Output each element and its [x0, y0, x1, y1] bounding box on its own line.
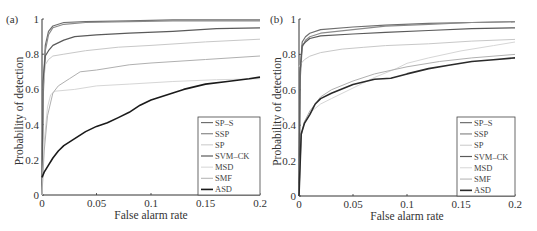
x-tick-label: 0.1: [400, 198, 414, 210]
y-axis-label: Probability of detection: [13, 56, 26, 165]
legend-entry: SP–S: [474, 118, 493, 128]
y-tick-label: 0: [291, 190, 297, 202]
legend: SP–SSSPSPSVM–CKMSDSMFASD: [457, 117, 515, 196]
legend-entry: SP: [474, 140, 484, 150]
roc-figure: 00.050.10.150.200.20.40.60.81False alarm…: [0, 0, 537, 231]
legend-entry: MSD: [474, 163, 492, 173]
y-axis-label: Probability of detection: [271, 57, 284, 166]
x-tick-label: 0.05: [87, 197, 107, 209]
y-tick-label: 0.4: [25, 119, 39, 131]
panel-b: 00.050.10.150.200.20.40.60.81False alarm…: [270, 13, 522, 222]
panel-label: (a): [6, 13, 19, 26]
y-tick-label: 0.2: [282, 155, 296, 167]
x-tick-label: 0.1: [144, 197, 158, 209]
legend-entry: SSP: [215, 129, 229, 139]
x-tick-label: 0.15: [451, 198, 471, 210]
panel-label: (b): [270, 13, 283, 26]
y-tick-label: 0.2: [25, 154, 39, 166]
y-tick-label: 0: [34, 189, 40, 201]
y-tick-label: 0.8: [25, 48, 39, 60]
x-tick-label: 0: [296, 198, 302, 210]
y-tick-label: 1: [34, 13, 40, 25]
legend-entry: ASD: [474, 185, 491, 195]
legend-entry: MSD: [215, 162, 233, 172]
x-tick-label: 0.2: [253, 197, 267, 209]
y-tick-label: 1: [291, 13, 297, 25]
legend-entry: SVM–CK: [474, 152, 509, 162]
legend: SP–SSSPSPSVM–CKMSDSMFASD: [198, 117, 260, 195]
legend-entry: SMF: [474, 174, 491, 184]
legend-entry: ASD: [215, 184, 232, 194]
x-tick-label: 0.05: [343, 198, 363, 210]
legend-entry: SSP: [474, 129, 488, 139]
y-tick-label: 0.6: [25, 83, 39, 95]
legend-entry: SP–S: [215, 118, 234, 128]
y-tick-label: 0.8: [282, 48, 296, 60]
series-line: [299, 39, 515, 66]
panel-a: 00.050.10.150.200.20.40.60.81False alarm…: [6, 13, 267, 221]
legend-entry: SP: [215, 140, 225, 150]
x-tick-label: 0.15: [196, 197, 216, 209]
x-tick-label: 0: [39, 197, 45, 209]
x-tick-label: 0.2: [508, 198, 522, 210]
x-axis-label: False alarm rate: [114, 209, 187, 221]
legend-entry: SMF: [215, 173, 232, 183]
x-axis-label: False alarm rate: [370, 210, 443, 222]
y-tick-label: 0.6: [282, 84, 296, 96]
legend-entry: SVM–CK: [215, 151, 250, 161]
y-tick-label: 0.4: [282, 119, 296, 131]
